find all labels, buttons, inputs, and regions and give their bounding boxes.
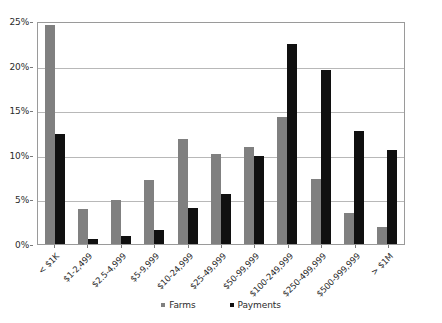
bar-farms[interactable] xyxy=(311,179,321,244)
bar-farms[interactable] xyxy=(244,147,254,244)
legend-label: Farms xyxy=(169,300,195,310)
bar-farms[interactable] xyxy=(144,180,154,244)
bar-payments[interactable] xyxy=(55,134,65,244)
legend-swatch-icon xyxy=(230,303,234,307)
bar-payments[interactable] xyxy=(254,156,264,244)
y-tick-label: 0% xyxy=(15,240,29,250)
bar-group xyxy=(204,23,237,244)
x-tick-mark xyxy=(87,245,88,248)
x-tick-mark xyxy=(388,245,389,248)
bar-payments[interactable] xyxy=(121,236,131,244)
plot-area xyxy=(37,22,405,245)
bar-payments[interactable] xyxy=(387,150,397,244)
bar-payments[interactable] xyxy=(221,194,231,244)
bar-farms[interactable] xyxy=(111,200,121,244)
bar-payments[interactable] xyxy=(188,208,198,244)
bar-farms[interactable] xyxy=(45,25,55,244)
bar-payments[interactable] xyxy=(321,70,331,244)
chart-legend: FarmsPayments xyxy=(0,300,442,310)
bar-group xyxy=(238,23,271,244)
bar-payments[interactable] xyxy=(154,230,164,244)
x-tick-label: $5-9,999 xyxy=(90,251,161,322)
legend-entry[interactable]: Farms xyxy=(161,300,195,310)
x-tick-mark xyxy=(254,245,255,248)
bar-group xyxy=(337,23,370,244)
bar-payments[interactable] xyxy=(287,44,297,244)
y-tick-label: 25% xyxy=(10,17,29,27)
bar-farms[interactable] xyxy=(344,213,354,244)
y-tick-label: 15% xyxy=(10,106,29,116)
y-tick-mark xyxy=(30,200,33,201)
y-tick-label: 20% xyxy=(10,62,29,72)
x-tick-mark xyxy=(154,245,155,248)
x-tick-mark xyxy=(54,245,55,248)
y-axis: 0%5%10%15%20%25% xyxy=(0,22,33,245)
bar-group xyxy=(38,23,71,244)
y-tick-label: 5% xyxy=(15,195,29,205)
x-tick-mark xyxy=(321,245,322,248)
bar-farms[interactable] xyxy=(211,154,221,244)
y-tick-label: 10% xyxy=(10,151,29,161)
legend-entry[interactable]: Payments xyxy=(230,300,281,310)
y-tick-mark xyxy=(30,67,33,68)
bar-group xyxy=(105,23,138,244)
bar-group xyxy=(304,23,337,244)
bar-farms[interactable] xyxy=(78,209,88,244)
legend-swatch-icon xyxy=(161,303,165,307)
x-tick-label: $1-2,499 xyxy=(24,251,95,322)
x-axis: < $1K$1-2,499$2.5-4,999$5-9,999$10-24,99… xyxy=(37,245,405,303)
bar-group xyxy=(71,23,104,244)
y-tick-mark xyxy=(30,111,33,112)
bar-payments[interactable] xyxy=(354,131,364,244)
y-tick-mark xyxy=(30,22,33,23)
x-tick-mark xyxy=(121,245,122,248)
bar-farms[interactable] xyxy=(377,227,387,244)
bar-farms[interactable] xyxy=(178,139,188,244)
bars-layer xyxy=(38,23,404,244)
legend-label: Payments xyxy=(238,300,281,310)
x-tick-mark xyxy=(221,245,222,248)
bar-chart: 0%5%10%15%20%25% < $1K$1-2,499$2.5-4,999… xyxy=(0,0,442,323)
y-tick-mark xyxy=(30,245,33,246)
y-tick-mark xyxy=(30,156,33,157)
bar-group xyxy=(371,23,404,244)
bar-group xyxy=(171,23,204,244)
bar-payments[interactable] xyxy=(88,239,98,244)
x-tick-mark xyxy=(188,245,189,248)
bar-group xyxy=(271,23,304,244)
bar-group xyxy=(138,23,171,244)
bar-farms[interactable] xyxy=(277,117,287,244)
x-tick-mark xyxy=(355,245,356,248)
x-tick-mark xyxy=(288,245,289,248)
x-tick-label: > $1M xyxy=(325,251,396,322)
